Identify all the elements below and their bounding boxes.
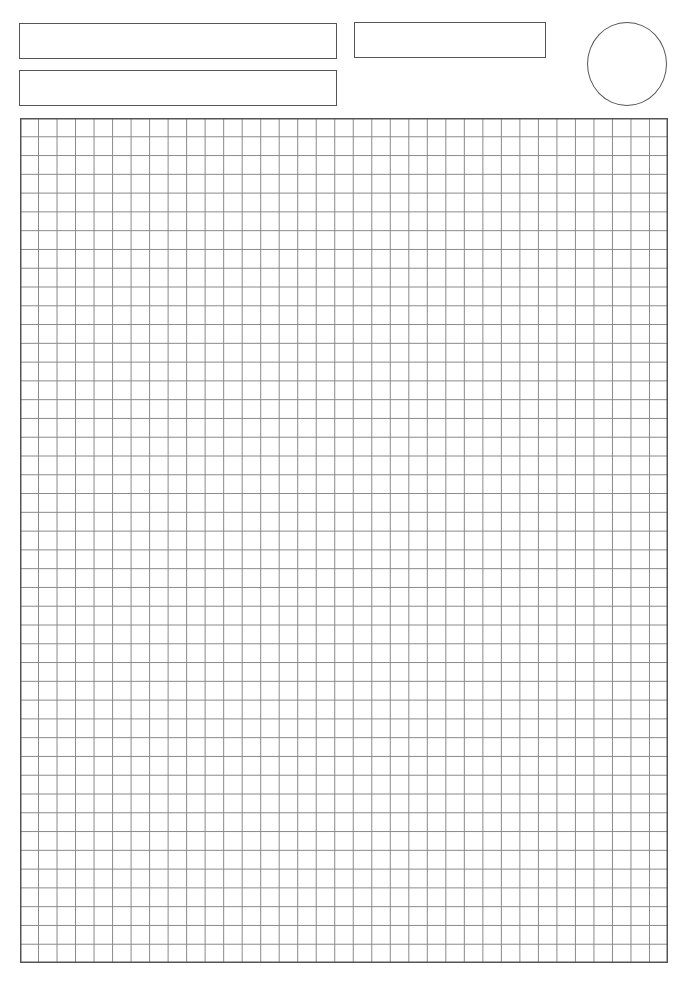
graph-paper-grid: [20, 118, 668, 963]
header-circle-field[interactable]: [587, 22, 667, 106]
header-field-2[interactable]: [19, 70, 337, 106]
grid-lines: [20, 118, 668, 963]
header-field-3[interactable]: [354, 22, 546, 58]
header-field-1[interactable]: [19, 23, 337, 59]
